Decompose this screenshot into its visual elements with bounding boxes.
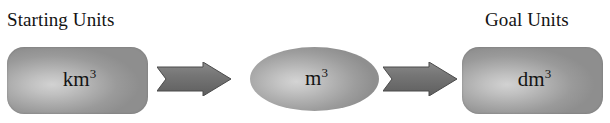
starting-units-label: Starting Units — [7, 10, 115, 29]
starting-unit-base: km — [63, 67, 90, 91]
starting-units-node: km3 — [7, 47, 148, 114]
intermediate-units-node: m3 — [250, 47, 379, 111]
goal-unit-text: dm3 — [518, 69, 551, 90]
intermediate-unit-text: m3 — [305, 68, 328, 89]
intermediate-unit-base: m — [305, 66, 321, 90]
starting-unit-text: km3 — [63, 69, 96, 90]
goal-unit-exponent: 3 — [545, 66, 552, 81]
goal-unit-base: dm — [518, 67, 545, 91]
arrow-middle-to-goal-icon — [383, 62, 457, 96]
goal-units-node: dm3 — [462, 47, 603, 114]
goal-units-label: Goal Units — [485, 10, 569, 29]
arrow-start-to-middle-icon — [157, 62, 231, 96]
intermediate-unit-exponent: 3 — [321, 65, 328, 80]
starting-unit-exponent: 3 — [90, 66, 97, 81]
diagram-canvas: Starting Units Goal Units km3 m3 — [0, 0, 610, 123]
